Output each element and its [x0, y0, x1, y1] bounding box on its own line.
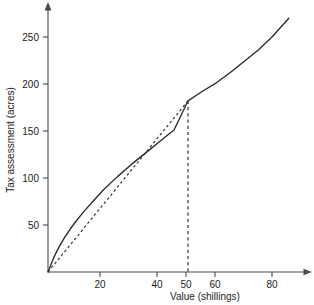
y-tick-label-200: 200	[22, 79, 39, 90]
y-axis-ticks	[43, 37, 48, 225]
x-tick-label-50: 50	[180, 279, 192, 290]
x-axis-ticks	[100, 272, 272, 277]
y-tick-label-150: 150	[22, 126, 39, 137]
y-tick-label-50: 50	[28, 220, 40, 231]
y-tick-label-250: 250	[22, 32, 39, 43]
y-tick-label-100: 100	[22, 173, 39, 184]
x-axis-arrowhead	[304, 269, 313, 276]
assessment-curve	[48, 18, 289, 272]
y-axis-arrowhead	[45, 2, 52, 11]
chord-line	[48, 101, 188, 272]
x-axis-title: Value (shillings)	[170, 291, 240, 302]
y-axis-title: Tax assessment (acres)	[5, 87, 16, 193]
chart-figure: 50 100 150 200 250 20 40 50 60 80 Value …	[0, 0, 314, 305]
x-tick-label-80: 80	[266, 279, 278, 290]
x-tick-label-60: 60	[209, 279, 221, 290]
x-tick-label-40: 40	[151, 279, 163, 290]
chart-plot-area: 50 100 150 200 250 20 40 50 60 80 Value …	[0, 0, 314, 305]
x-tick-label-20: 20	[94, 279, 106, 290]
